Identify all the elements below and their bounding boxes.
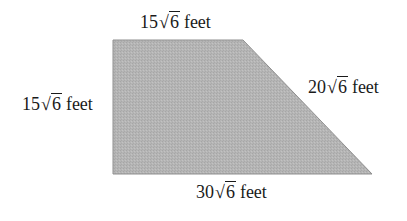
top-side-label: 15√6feet	[140, 13, 211, 31]
left-side-label: 15√6feet	[22, 95, 93, 113]
radical-icon: √	[215, 182, 225, 202]
slant-unit: feet	[352, 77, 379, 97]
bottom-side-label: 30√6feet	[196, 183, 267, 201]
bottom-coefficient: 30	[196, 182, 214, 202]
radical-icon: √	[159, 12, 169, 32]
left-coefficient: 15	[22, 94, 40, 114]
top-coefficient: 15	[140, 12, 158, 32]
slant-radical: √6	[327, 78, 348, 96]
bottom-radicand: 6	[225, 181, 236, 202]
slant-side-label: 20√6feet	[308, 78, 379, 96]
top-unit: feet	[184, 12, 211, 32]
left-radicand: 6	[51, 93, 62, 114]
left-unit: feet	[66, 94, 93, 114]
bottom-unit: feet	[240, 182, 267, 202]
top-radical: √6	[159, 13, 180, 31]
radical-icon: √	[41, 94, 51, 114]
radical-icon: √	[327, 77, 337, 97]
slant-radicand: 6	[337, 76, 348, 97]
bottom-radical: √6	[215, 183, 236, 201]
left-radical: √6	[41, 95, 62, 113]
top-radicand: 6	[169, 11, 180, 32]
trapezoid-shape	[113, 40, 372, 174]
slant-coefficient: 20	[308, 77, 326, 97]
